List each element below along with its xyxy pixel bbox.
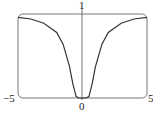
plot-frame bbox=[18, 14, 147, 98]
y-tick-1: 1 bbox=[79, 0, 85, 11]
x-tick-neg5: −5 bbox=[3, 93, 15, 104]
x-tick-5: 5 bbox=[148, 93, 153, 104]
function-curve bbox=[18, 17, 147, 98]
x-tick-0: 0 bbox=[79, 101, 85, 112]
plot-area bbox=[0, 0, 153, 117]
